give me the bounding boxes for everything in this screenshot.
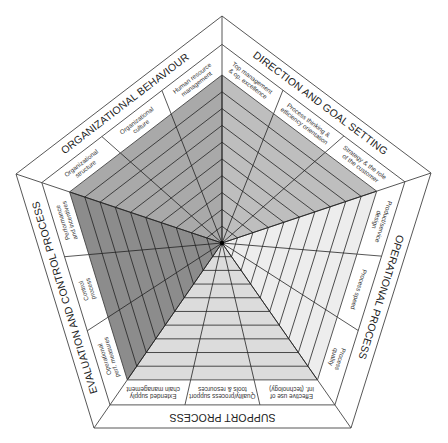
corner-connector <box>317 380 351 428</box>
sub-item-label: Extended supplychain management <box>126 385 180 400</box>
label-divider <box>357 254 382 256</box>
sub-item-label: Process speed <box>349 268 369 311</box>
corner-connector <box>94 380 127 428</box>
center-dot <box>220 241 224 245</box>
sub-item-label: Processquality <box>326 345 347 371</box>
label-divider <box>102 137 121 153</box>
label-divider <box>87 317 108 331</box>
sub-item-label: Quality/process supporttools & resources <box>189 386 255 400</box>
category-title: SUPPORT PROCESS <box>169 412 275 424</box>
category-title: OPERATIONAL PROCESS <box>356 234 406 361</box>
sub-item-label: Controlprocess <box>76 277 97 303</box>
corner-connector <box>16 174 70 192</box>
label-divider <box>65 255 89 257</box>
label-divider <box>162 90 171 114</box>
maturity-pentagon-diagram: Top management& op. excellenceProcess th… <box>0 0 448 443</box>
sub-item-label: Effective use ofinf. (technology) <box>269 385 314 400</box>
label-divider <box>337 317 358 331</box>
